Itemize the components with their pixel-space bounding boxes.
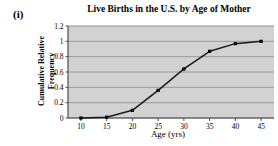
y-tick-label: 1.2 [54,22,64,31]
figure-container: (i) Live Births in the U.S. by Age of Mo… [0,0,278,146]
plot-area: 00.20.40.60.811.2 1015202530354045 [54,22,274,131]
data-point-marker [105,116,108,119]
data-point-marker [131,109,134,112]
data-point-marker [79,116,82,119]
x-tick-label: 30 [180,122,188,131]
x-tick-label: 15 [103,122,111,131]
y-tick-label: 0.8 [54,52,64,61]
chart-plot: 00.20.40.60.811.2 1015202530354045 [0,0,278,146]
y-tick-label: 1 [60,37,64,46]
y-tick-label: 0 [60,114,64,123]
data-point-marker [234,42,237,45]
x-tick-label: 45 [257,122,265,131]
y-tick-label: 0.4 [54,83,64,92]
x-tick-label: 35 [206,122,214,131]
data-point-marker [260,40,263,43]
x-tick-label: 40 [232,122,240,131]
y-tick-label: 0.6 [54,68,64,77]
x-tick-label: 10 [77,122,85,131]
y-tick-label: 0.2 [54,98,64,107]
y-tick-labels: 00.20.40.60.811.2 [54,22,64,123]
x-tick-label: 25 [154,122,162,131]
data-point-marker [157,89,160,92]
data-point-marker [182,67,185,70]
x-tick-label: 20 [129,122,137,131]
data-point-marker [208,50,211,53]
x-tick-labels: 1015202530354045 [77,122,265,131]
